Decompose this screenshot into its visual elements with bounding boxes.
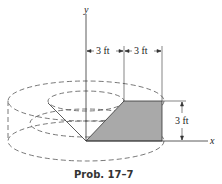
caption: Prob. 17–7 bbox=[74, 169, 133, 180]
diagram-canvas: y x 3 ft 3 ft 3 ft Prob. 17–7 bbox=[0, 0, 222, 184]
y-axis-label: y bbox=[83, 4, 89, 15]
dim-height: 3 ft bbox=[175, 115, 189, 126]
x-axis-label: x bbox=[209, 135, 215, 146]
cone-edge bbox=[48, 103, 86, 141]
dim-inner-radius: 3 ft bbox=[96, 45, 110, 56]
dim-outer-offset: 3 ft bbox=[134, 45, 148, 56]
